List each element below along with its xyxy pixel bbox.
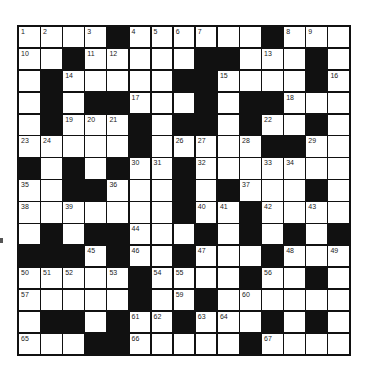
answer-cell[interactable]: 51 — [41, 268, 62, 288]
answer-cell[interactable] — [284, 312, 305, 332]
answer-cell[interactable] — [85, 71, 106, 91]
answer-cell[interactable] — [262, 290, 283, 310]
answer-cell[interactable] — [328, 49, 349, 69]
answer-cell[interactable]: 41 — [218, 202, 239, 222]
answer-cell[interactable] — [218, 136, 239, 156]
answer-cell[interactable] — [130, 71, 151, 91]
answer-cell[interactable] — [174, 49, 195, 69]
answer-cell[interactable]: 20 — [85, 115, 106, 135]
answer-cell[interactable]: 3 — [85, 27, 106, 47]
answer-cell[interactable] — [306, 290, 327, 310]
answer-cell[interactable]: 8 — [284, 27, 305, 47]
answer-cell[interactable] — [107, 71, 128, 91]
answer-cell[interactable] — [240, 312, 261, 332]
answer-cell[interactable] — [41, 334, 62, 354]
answer-cell[interactable] — [41, 180, 62, 200]
answer-cell[interactable]: 34 — [284, 158, 305, 178]
answer-cell[interactable]: 49 — [328, 246, 349, 266]
answer-cell[interactable]: 35 — [19, 180, 40, 200]
answer-cell[interactable] — [85, 136, 106, 156]
answer-cell[interactable] — [152, 334, 173, 354]
answer-cell[interactable]: 17 — [130, 93, 151, 113]
answer-cell[interactable] — [107, 202, 128, 222]
answer-cell[interactable] — [152, 246, 173, 266]
answer-cell[interactable]: 61 — [130, 312, 151, 332]
answer-cell[interactable] — [262, 71, 283, 91]
answer-cell[interactable] — [240, 49, 261, 69]
answer-cell[interactable]: 9 — [306, 27, 327, 47]
answer-cell[interactable]: 48 — [284, 246, 305, 266]
answer-cell[interactable]: 32 — [196, 158, 217, 178]
answer-cell[interactable] — [218, 290, 239, 310]
answer-cell[interactable] — [306, 334, 327, 354]
answer-cell[interactable]: 40 — [196, 202, 217, 222]
answer-cell[interactable]: 47 — [196, 246, 217, 266]
answer-cell[interactable]: 64 — [218, 312, 239, 332]
answer-cell[interactable] — [218, 334, 239, 354]
answer-cell[interactable]: 26 — [174, 136, 195, 156]
answer-cell[interactable] — [284, 290, 305, 310]
answer-cell[interactable]: 4 — [130, 27, 151, 47]
answer-cell[interactable] — [19, 312, 40, 332]
answer-cell[interactable] — [174, 93, 195, 113]
answer-cell[interactable] — [196, 180, 217, 200]
answer-cell[interactable] — [328, 268, 349, 288]
answer-cell[interactable] — [19, 115, 40, 135]
answer-cell[interactable]: 6 — [174, 27, 195, 47]
answer-cell[interactable] — [218, 224, 239, 244]
answer-cell[interactable] — [218, 158, 239, 178]
answer-cell[interactable]: 57 — [19, 290, 40, 310]
answer-cell[interactable]: 23 — [19, 136, 40, 156]
answer-cell[interactable] — [218, 268, 239, 288]
answer-cell[interactable] — [107, 136, 128, 156]
answer-cell[interactable]: 10 — [19, 49, 40, 69]
answer-cell[interactable]: 27 — [196, 136, 217, 156]
answer-cell[interactable]: 62 — [152, 312, 173, 332]
answer-cell[interactable] — [196, 334, 217, 354]
answer-cell[interactable]: 16 — [328, 71, 349, 91]
answer-cell[interactable] — [328, 136, 349, 156]
answer-cell[interactable]: 7 — [196, 27, 217, 47]
answer-cell[interactable] — [306, 224, 327, 244]
answer-cell[interactable] — [85, 312, 106, 332]
answer-cell[interactable]: 59 — [174, 290, 195, 310]
answer-cell[interactable]: 43 — [306, 202, 327, 222]
answer-cell[interactable] — [240, 158, 261, 178]
answer-cell[interactable] — [152, 49, 173, 69]
answer-cell[interactable] — [152, 71, 173, 91]
answer-cell[interactable] — [328, 290, 349, 310]
answer-cell[interactable]: 22 — [262, 115, 283, 135]
answer-cell[interactable]: 14 — [63, 71, 84, 91]
answer-cell[interactable]: 1 — [19, 27, 40, 47]
answer-cell[interactable] — [306, 93, 327, 113]
answer-cell[interactable] — [284, 202, 305, 222]
answer-cell[interactable] — [174, 334, 195, 354]
answer-cell[interactable]: 36 — [107, 180, 128, 200]
answer-cell[interactable]: 63 — [196, 312, 217, 332]
answer-cell[interactable]: 30 — [130, 158, 151, 178]
answer-cell[interactable] — [284, 115, 305, 135]
answer-cell[interactable] — [85, 202, 106, 222]
answer-cell[interactable] — [130, 49, 151, 69]
answer-cell[interactable]: 53 — [107, 268, 128, 288]
answer-cell[interactable] — [130, 202, 151, 222]
answer-cell[interactable] — [262, 180, 283, 200]
answer-cell[interactable] — [284, 49, 305, 69]
answer-cell[interactable] — [152, 202, 173, 222]
answer-cell[interactable] — [328, 202, 349, 222]
answer-cell[interactable] — [328, 158, 349, 178]
answer-cell[interactable]: 31 — [152, 158, 173, 178]
answer-cell[interactable] — [306, 158, 327, 178]
answer-cell[interactable]: 42 — [262, 202, 283, 222]
answer-cell[interactable] — [85, 290, 106, 310]
answer-cell[interactable]: 11 — [85, 49, 106, 69]
answer-cell[interactable] — [63, 224, 84, 244]
answer-cell[interactable] — [41, 290, 62, 310]
answer-cell[interactable]: 24 — [41, 136, 62, 156]
answer-cell[interactable] — [41, 49, 62, 69]
answer-cell[interactable] — [19, 71, 40, 91]
answer-cell[interactable] — [218, 93, 239, 113]
answer-cell[interactable] — [240, 246, 261, 266]
answer-cell[interactable] — [152, 136, 173, 156]
answer-cell[interactable]: 45 — [85, 246, 106, 266]
